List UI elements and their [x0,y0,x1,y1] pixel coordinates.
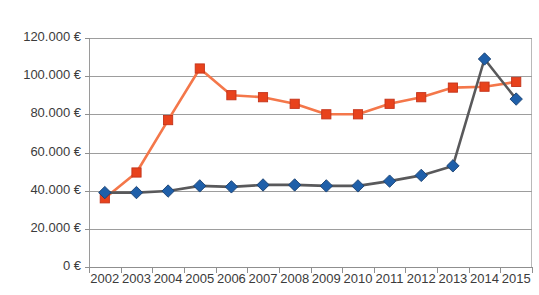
x-axis-tick [89,267,90,273]
data-point-series-blue-2010 [352,180,364,192]
data-point-series-orange-2008 [290,99,299,108]
data-point-series-blue-2013 [447,160,459,172]
chart-container: VW T1 Samba Pritsche 520 GTB 0 €20.000 €… [0,0,539,295]
x-axis-tick [152,267,153,273]
data-point-series-blue-2009 [320,180,332,192]
x-axis-label: 2010 [343,271,372,286]
x-axis-label: 2012 [407,271,436,286]
x-axis-label: 2003 [122,271,151,286]
x-axis-tick [121,267,122,273]
y-axis-label: 60.000 € [0,144,81,159]
y-axis-label: 20.000 € [0,220,81,235]
data-point-series-orange-2009 [322,110,331,119]
data-point-series-orange-2010 [353,110,362,119]
x-axis-label: 2015 [502,271,531,286]
data-point-series-orange-2004 [164,116,173,125]
data-point-series-blue-2012 [415,169,427,181]
data-point-series-orange-2014 [480,82,489,91]
y-axis-label: 40.000 € [0,182,81,197]
data-point-series-blue-2011 [383,175,395,187]
y-axis-label: 80.000 € [0,105,81,120]
data-point-series-blue-2008 [288,179,300,191]
x-axis-tick [311,267,312,273]
data-point-series-blue-2003 [130,186,142,198]
y-axis-label: 120.000 € [0,29,81,44]
x-axis-label: 2008 [280,271,309,286]
x-axis-label: 2004 [154,271,183,286]
data-point-series-blue-2005 [194,180,206,192]
x-axis-tick [500,267,501,273]
data-point-series-blue-2007 [257,179,269,191]
x-axis-tick [469,267,470,273]
data-point-series-orange-2013 [448,83,457,92]
x-axis-label: 2014 [470,271,499,286]
x-axis-tick [247,267,248,273]
x-axis-label: 2005 [185,271,214,286]
y-axis-label: 0 € [0,258,81,273]
data-point-series-orange-2012 [417,93,426,102]
y-axis-label: 100.000 € [0,67,81,82]
series-layer [89,38,532,267]
data-point-series-orange-2015 [512,77,521,86]
x-axis-label: 2002 [90,271,119,286]
x-axis-tick [216,267,217,273]
x-axis-tick [279,267,280,273]
x-axis-tick [405,267,406,273]
data-point-series-blue-2004 [162,185,174,197]
data-point-series-orange-2006 [227,91,236,100]
data-point-series-blue-2006 [225,181,237,193]
x-axis-tick [437,267,438,273]
data-point-series-orange-2007 [258,93,267,102]
x-axis-tick [184,267,185,273]
x-axis-tick [532,267,533,273]
x-axis-label: 2009 [312,271,341,286]
x-axis-label: 2013 [438,271,467,286]
series-line-series-blue [105,59,516,193]
x-axis-tick [374,267,375,273]
x-axis-label: 2006 [217,271,246,286]
data-point-series-orange-2005 [195,64,204,73]
x-axis-label: 2007 [249,271,278,286]
data-point-series-orange-2003 [132,168,141,177]
x-axis-tick [342,267,343,273]
data-point-series-orange-2011 [385,99,394,108]
chart-title: VW T1 Samba Pritsche 520 GTB [8,0,200,3]
x-axis-label: 2011 [376,271,404,286]
